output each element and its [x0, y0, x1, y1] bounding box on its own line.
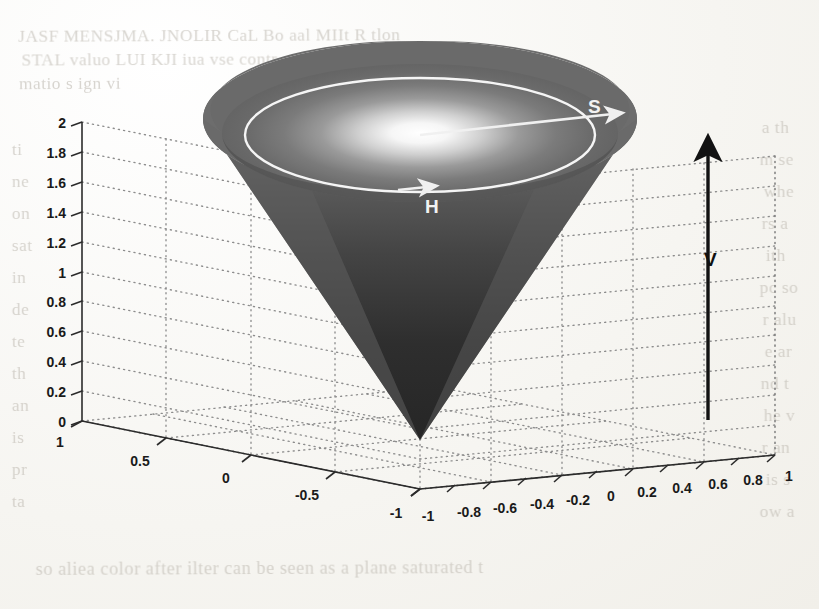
page-background: JASF MENSJMA. JNOLIR CaL Bo aal MIIt R t…	[0, 0, 819, 609]
y-tick-label: -1	[390, 505, 403, 521]
y-tick-label: 1	[56, 434, 64, 450]
x-tick-label: -0.6	[493, 500, 517, 516]
z-tick-label: 1	[58, 265, 66, 281]
y-tick-label: -0.5	[295, 487, 319, 503]
y-tick-label: 0.5	[130, 453, 150, 469]
x-tick-label: 0	[607, 488, 615, 504]
z-tick-label: 0.4	[47, 354, 67, 370]
z-tick-label: 1.2	[47, 235, 67, 251]
x-tick-label: 1	[785, 468, 793, 484]
value-annotation: V	[704, 140, 717, 420]
x-tick-label: 0.4	[672, 480, 692, 496]
z-tick-label: 2	[58, 115, 66, 131]
z-axis-ticks: 2 1.8 1.6 1.4 1.2 1 0.8 0.6 0.4 0.2 0	[47, 115, 82, 430]
hue-label: H	[425, 196, 439, 217]
value-label: V	[704, 249, 717, 270]
cone-surface	[203, 41, 637, 440]
x-tick-label: 0.8	[743, 472, 763, 488]
plot-svg: H S V	[0, 0, 819, 609]
x-tick-label: -0.4	[530, 496, 554, 512]
x-tick-label: -0.8	[457, 504, 481, 520]
y-tick-label: 0	[222, 470, 230, 486]
z-tick-label: 0.2	[47, 384, 67, 400]
z-tick-label: 1.6	[47, 175, 67, 191]
z-tick-label: 1.4	[47, 205, 67, 221]
z-tick-label: 0	[58, 414, 66, 430]
x-tick-label: 0.2	[637, 484, 657, 500]
x-tick-label: -1	[422, 508, 435, 524]
x-axis-ticks: -1 -0.8 -0.6 -0.4 -0.2 0 0.2 0.4 0.6 0.8…	[411, 455, 793, 524]
x-tick-label: -0.2	[566, 492, 590, 508]
saturation-label: S	[588, 96, 601, 117]
z-tick-label: 1.8	[47, 145, 67, 161]
z-tick-label: 0.8	[47, 294, 67, 310]
z-tick-label: 0.6	[47, 324, 67, 340]
plot-figure: H S V	[0, 0, 819, 609]
x-tick-label: 0.6	[708, 476, 728, 492]
